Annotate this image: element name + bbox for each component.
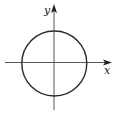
y-axis-label: y [43, 4, 51, 17]
coordinate-diagram: y x [0, 0, 118, 115]
x-axis-label: x [104, 64, 111, 77]
